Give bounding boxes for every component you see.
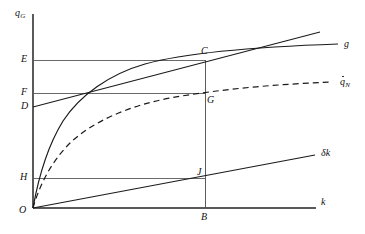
point-label-B: B [201,212,207,222]
x-axis-label: k [321,197,325,207]
point-label-D: D [21,101,28,111]
point-label-C: C [201,46,208,56]
point-label-H: H [20,172,27,182]
point-label-E: E [21,54,27,64]
curve-label-delta-k: δk [321,148,330,158]
curve-label-g: g [344,39,349,49]
y-axis-label: qG [15,8,25,18]
point-label-F: F [21,87,27,97]
delta-k-line [33,155,315,208]
production-curve-g [33,44,338,208]
point-label-G: G [207,95,214,105]
point-label-J: J [197,167,201,177]
tangent-line-DC [33,32,320,107]
growth-diagram-figure: qG k O E F D H C G J B g qN δk [0,0,365,234]
consumption-curve-qn [33,82,332,208]
curve-label-qn: qN [340,77,350,87]
origin-label-O: O [19,205,26,215]
diagram-canvas [0,0,365,234]
